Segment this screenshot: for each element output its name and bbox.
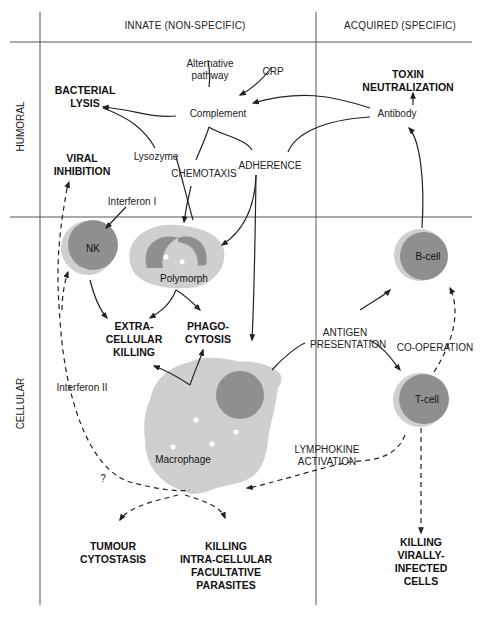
nk-cell-label: NK: [78, 243, 108, 255]
question-mark-label: ?: [96, 473, 110, 485]
crp-label: CRP: [258, 66, 288, 78]
antibody-to-adherence: [288, 117, 370, 152]
cellular-row-label: CELLULAR: [15, 378, 26, 430]
co-operation-t-to-b: [434, 288, 455, 372]
polymorph-to-extracellular-killing: [150, 290, 176, 318]
interferon-2-label: Interferon II: [50, 382, 114, 394]
nk-to-extracellular-killing: [90, 280, 107, 318]
toxin-neutralization-outcome: TOXIN NEUTRALIZATION: [360, 68, 456, 94]
antibody-to-complement: [253, 95, 370, 108]
tumour-cytostasis-outcome: TUMOUR CYTOSTASIS: [78, 540, 148, 566]
co-operation-label: CO-OPERATION: [395, 342, 475, 354]
lysozyme-label: Lysozyme: [128, 151, 184, 163]
interferon-1-label: Interferon I: [100, 196, 164, 208]
b-cell-to-antibody: [409, 128, 423, 228]
extracellular-killing-outcome: EXTRA- CELLULAR KILLING: [104, 320, 164, 359]
macrophage-cell-label: Macrophage: [148, 454, 218, 466]
macrophage-to-killing-intracellular: [185, 495, 225, 518]
killing-virally-infected-cells-outcome: KILLING VIRALLY- INFECTED CELLS: [388, 536, 454, 588]
macrophage-cell-shape: [144, 358, 281, 494]
killing-intracellular-parasites-outcome: KILLING INTRA-CELLULAR FACULTATIVE PARAS…: [176, 540, 276, 592]
phagocytosis-outcome: PHAGO- CYTOSIS: [180, 320, 236, 346]
viral-inhibition-outcome: VIRAL INHIBITION: [42, 152, 122, 178]
humoral-row-label: HUMORAL: [15, 108, 26, 152]
acquired-column-header: ACQUIRED (SPECIFIC): [340, 20, 460, 32]
macrophage-to-antigen-presentation: [272, 343, 305, 370]
macrophage-to-tumour-cytostasis: [120, 495, 178, 520]
chemotaxis-label: CHEMOTAXIS: [166, 168, 242, 180]
polymorph-to-phagocytosis: [176, 290, 200, 310]
antigen-presentation-label: ANTIGEN PRESENTATION: [310, 327, 380, 351]
adherence-label: ADHERENCE: [236, 160, 304, 172]
b-cell-label: B-cell: [408, 251, 448, 263]
adherence-to-polymorph: [222, 175, 256, 245]
complement-label: Complement: [183, 108, 253, 120]
antibody-label: Antibody: [372, 108, 422, 120]
bacterial-lysis-outcome: BACTERIAL LYSIS: [50, 84, 120, 110]
t-cell-label: T-cell: [407, 394, 447, 406]
lymphokine-activation-label: LYMPHOKINE ACTIVATION: [290, 444, 364, 468]
antigen-presentation-to-b-cell: [360, 290, 390, 310]
innate-column-header: INNATE (NON-SPECIFIC): [110, 20, 260, 32]
alternative-pathway-label: Alternative pathway: [180, 58, 240, 82]
complement-to-adherence: [209, 127, 252, 150]
polymorph-cell-label: Polymorph: [154, 273, 214, 285]
complement-to-chemotaxis: [196, 127, 209, 160]
interferon-2-to-nk: [62, 272, 68, 310]
